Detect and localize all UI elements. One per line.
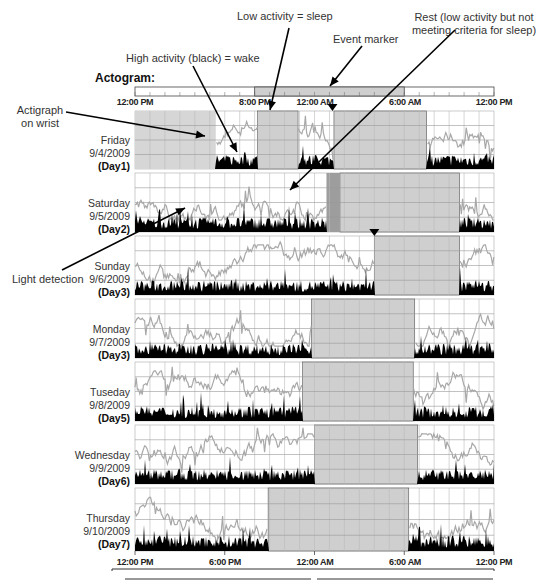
low-activity-arrow (270, 28, 289, 110)
event-marker-icon (327, 104, 337, 111)
day-row (135, 425, 494, 484)
day-row (135, 362, 494, 421)
actogram-plot (0, 0, 544, 588)
day-row (135, 229, 494, 295)
day-row (135, 104, 494, 169)
low-activity-arrow-head (268, 100, 276, 110)
full-span-bracket (112, 569, 494, 571)
event-marker-icon (369, 229, 379, 236)
day-row (135, 173, 494, 232)
day-row (135, 488, 494, 551)
day-row (135, 299, 494, 358)
